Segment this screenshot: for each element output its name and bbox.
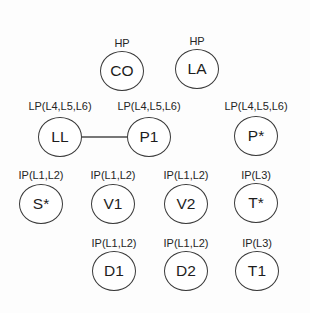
node-label-ts: T* bbox=[248, 195, 264, 211]
node-label-ss: S* bbox=[33, 196, 50, 212]
node-label-co: CO bbox=[110, 63, 133, 79]
node-co[interactable]: CO bbox=[100, 51, 144, 91]
node-tag-la: HP bbox=[127, 36, 267, 47]
node-v2[interactable]: V2 bbox=[164, 184, 208, 224]
node-ss[interactable]: S* bbox=[19, 184, 63, 224]
node-tag-ps: LP(L4,L5,L6) bbox=[186, 101, 310, 112]
node-label-d1: D1 bbox=[104, 263, 124, 279]
node-d2[interactable]: D2 bbox=[164, 251, 208, 291]
node-la[interactable]: LA bbox=[175, 49, 219, 89]
node-ll[interactable]: LL bbox=[38, 117, 82, 157]
node-tag-ts: IP(L3) bbox=[186, 170, 310, 181]
node-ts[interactable]: T* bbox=[234, 183, 278, 223]
node-label-d2: D2 bbox=[176, 263, 196, 279]
node-label-p1: P1 bbox=[139, 129, 158, 145]
node-tag-t1: IP(L3) bbox=[187, 238, 310, 249]
node-label-v2: V2 bbox=[176, 196, 195, 212]
node-label-ll: LL bbox=[51, 129, 68, 145]
node-p1[interactable]: P1 bbox=[127, 117, 171, 157]
node-t1[interactable]: T1 bbox=[235, 251, 279, 291]
node-ps[interactable]: P* bbox=[234, 116, 278, 156]
node-label-ps: P* bbox=[248, 128, 265, 144]
node-label-v1: V1 bbox=[103, 196, 122, 212]
node-v1[interactable]: V1 bbox=[91, 184, 135, 224]
network-diagram: HPCOHPLALP(L4,L5,L6)LLLP(L4,L5,L6)P1LP(L… bbox=[0, 0, 310, 313]
node-d1[interactable]: D1 bbox=[92, 251, 136, 291]
node-label-la: LA bbox=[187, 61, 206, 77]
node-label-t1: T1 bbox=[248, 263, 266, 279]
